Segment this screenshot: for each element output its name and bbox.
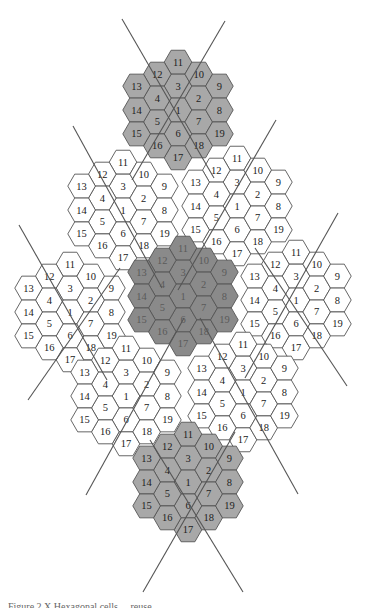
hex-cell-label: 3 <box>185 453 190 464</box>
hex-cell-label: 3 <box>67 283 72 294</box>
hex-cell-label: 15 <box>249 318 260 329</box>
hex-cell-label: 19 <box>273 224 284 235</box>
hex-cell-label: 14 <box>79 391 90 402</box>
hex-cell-label: 3 <box>123 367 128 378</box>
hex-cell-label: 8 <box>222 291 227 302</box>
hex-cell-label: 12 <box>97 169 108 180</box>
hex-cell-label: 7 <box>141 216 146 227</box>
hex-cell-label: 19 <box>224 500 235 511</box>
hex-cell-label: 18 <box>203 512 214 523</box>
hex-cell-label: 17 <box>118 252 129 263</box>
hex-cell-label: 10 <box>193 69 204 80</box>
hex-cell-label: 14 <box>136 291 147 302</box>
hex-cell-label: 8 <box>165 391 170 402</box>
hex-cell-label: 3 <box>175 81 180 92</box>
hex-cell-label: 1 <box>293 295 298 306</box>
hex-cell-label: 7 <box>206 488 211 499</box>
hex-cell-label: 18 <box>138 240 149 251</box>
hex-cell-label: 16 <box>270 330 281 341</box>
hex-cell-label: 4 <box>155 93 161 104</box>
hex-cell-label: 6 <box>120 228 125 239</box>
hex-cell-label: 9 <box>109 283 114 294</box>
hex-cell-label: 10 <box>198 255 209 266</box>
hex-cell-label: 13 <box>196 363 207 374</box>
hex-cell-label: 2 <box>201 279 206 290</box>
hex-cell-label: 2 <box>314 283 319 294</box>
hex-cell-label: 11 <box>232 153 242 164</box>
hex-cell-label: 13 <box>79 367 90 378</box>
hex-cell-label: 3 <box>293 271 298 282</box>
hex-cell-label: 9 <box>165 367 170 378</box>
hex-cell-label: 4 <box>103 379 109 390</box>
hex-cell-label: 16 <box>211 236 222 247</box>
hex-cell-label: 1 <box>180 291 185 302</box>
hex-cell-label: 8 <box>162 205 167 216</box>
hex-cell-label: 11 <box>238 339 248 350</box>
hex-cell-label: 7 <box>201 302 206 313</box>
hex-cell-label: 6 <box>175 128 180 139</box>
hex-cell-label: 19 <box>159 228 170 239</box>
hex-cell-label: 9 <box>227 453 232 464</box>
hex-cell-label: 11 <box>121 343 131 354</box>
figure-caption: Figure 2.X Hexagonal cells ... reuse ... <box>8 598 373 608</box>
hex-cell-label: 17 <box>183 524 194 535</box>
hex-cell-label: 19 <box>106 330 117 341</box>
hex-cell-label: 13 <box>23 283 34 294</box>
hex-cell-label: 19 <box>162 414 173 425</box>
hex-cell-label: 9 <box>222 267 227 278</box>
hex-cell-label: 13 <box>141 453 152 464</box>
hex-cell-label: 15 <box>79 414 90 425</box>
hex-cell-label: 15 <box>23 330 34 341</box>
hex-cell-label: 15 <box>190 224 201 235</box>
hex-cell-label: 3 <box>120 181 125 192</box>
hex-cell-label: 15 <box>141 500 152 511</box>
hex-cell-label: 1 <box>175 105 180 116</box>
hex-cell-label: 4 <box>100 193 106 204</box>
hex-cell-label: 7 <box>196 116 201 127</box>
hex-cell-label: 11 <box>183 429 193 440</box>
hex-cell-label: 14 <box>249 295 260 306</box>
right-cluster: 11316171027189819124516131415 <box>241 240 351 360</box>
hex-cell-label: 13 <box>249 271 260 282</box>
hex-cell-label: 5 <box>155 116 160 127</box>
hex-cell-label: 2 <box>255 189 260 200</box>
hex-cell-label: 12 <box>157 255 168 266</box>
hex-cell-label: 4 <box>273 283 279 294</box>
hex-cell-label: 17 <box>178 338 189 349</box>
hex-cell-label: 9 <box>217 81 222 92</box>
hex-cell-label: 1 <box>123 391 128 402</box>
hex-cell-label: 4 <box>47 295 53 306</box>
hex-cell-label: 12 <box>162 441 173 452</box>
hex-cell-label: 11 <box>65 259 75 270</box>
hex-cell-label: 14 <box>196 387 207 398</box>
hex-cell-label: 1 <box>234 201 239 212</box>
hex-cell-label: 18 <box>252 236 263 247</box>
hex-cell-label: 18 <box>141 426 152 437</box>
hex-cell-label: 7 <box>88 318 93 329</box>
hex-cell-label: 8 <box>109 307 114 318</box>
hex-cell-label: 3 <box>180 267 185 278</box>
hex-cell-label: 6 <box>234 224 239 235</box>
hex-cell-label: 14 <box>131 105 142 116</box>
hex-cell-label: 17 <box>173 152 184 163</box>
hex-cell-label: 11 <box>178 243 188 254</box>
hex-cell-label: 19 <box>332 318 343 329</box>
hex-cell-label: 6 <box>240 410 245 421</box>
hex-cell-label: 16 <box>100 426 111 437</box>
hex-cell-label: 13 <box>190 177 201 188</box>
hex-cell-label: 7 <box>144 402 149 413</box>
hex-cell-label: 16 <box>97 240 108 251</box>
hex-cell-label: 5 <box>100 216 105 227</box>
hex-cell-label: 10 <box>203 441 214 452</box>
hex-cell-label: 1 <box>185 477 190 488</box>
hex-cell-label: 4 <box>220 375 226 386</box>
hex-cell-label: 8 <box>227 477 232 488</box>
hex-cell-label: 5 <box>165 488 170 499</box>
hex-cell-label: 9 <box>276 177 281 188</box>
hex-cell-label: 14 <box>76 205 87 216</box>
hex-cell-label: 10 <box>141 355 152 366</box>
hex-cell-label: 17 <box>65 354 76 365</box>
hex-cell-label: 14 <box>141 477 152 488</box>
hex-cell-label: 11 <box>291 247 301 258</box>
hex-cell-label: 5 <box>160 302 165 313</box>
